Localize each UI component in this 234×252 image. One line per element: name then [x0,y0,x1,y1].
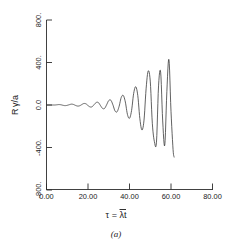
data-curve-line [47,59,175,157]
y-tick-labels: 800. 400. 0.0 -400. -800. [34,13,43,199]
chart-svg: 800. 400. 0.0 -400. -800. 0.00 20.00 40.… [0,0,234,252]
y-tick-label-800: 800. [34,13,43,27]
y-tick-label-0: 0.0 [34,100,43,110]
y-tick-label-neg400: -400. [34,139,43,156]
x-axis-title-t: t [124,210,127,220]
svg-text:Rγ/a: Rγ/a [10,95,20,115]
figure-panel: 800. 400. 0.0 -400. -800. 0.00 20.00 40.… [0,0,234,252]
x-tick-label-80: 80.00 [203,192,222,201]
x-tick-label-60: 60.00 [162,192,181,201]
svg-text:τ = λt: τ = λt [106,210,127,220]
y-axis-title-slash-a: /a [10,95,20,103]
figure-caption: (a) [111,229,122,239]
x-axis-title: τ = λt [106,210,127,221]
x-tick-label-0: 0.00 [39,192,53,201]
x-axis-title-eq: = [109,210,119,220]
x-tick-labels: 0.00 20.00 40.00 60.00 80.00 [39,192,221,201]
y-tick-label-400: 400. [34,55,43,69]
y-axis-title: Rγ/a [10,95,20,115]
y-axis-title-R: R [10,108,20,115]
x-axis-ticks [47,184,213,190]
x-tick-label-20: 20.00 [79,192,98,201]
x-tick-label-40: 40.00 [120,192,139,201]
